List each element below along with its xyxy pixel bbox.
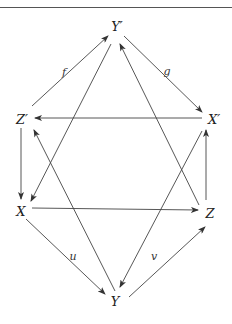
arrow-Yp-to-X [31,44,111,201]
arrow-Zp-to-Yp [32,36,108,106]
arrow-Z-to-Yp [120,44,199,205]
arrow-X-to-Y [26,219,105,294]
node-x-prime: X′ [208,113,220,126]
node-y: Y [111,295,120,308]
commutative-diagram [0,0,232,324]
node-y-prime: Y′ [111,20,123,33]
arrow-Y-to-Zp [34,130,115,291]
edge-label-g: g [163,66,170,77]
edge-label-v: v [151,251,157,262]
edge-label-f: f [62,67,66,78]
node-x: X [16,205,25,218]
node-z: Z [205,207,214,220]
node-z-prime: Z′ [16,113,28,126]
arrow-X-to-Z [32,208,198,210]
edge-label-u: u [69,251,76,262]
arrow-Y-to-Z [129,227,205,297]
